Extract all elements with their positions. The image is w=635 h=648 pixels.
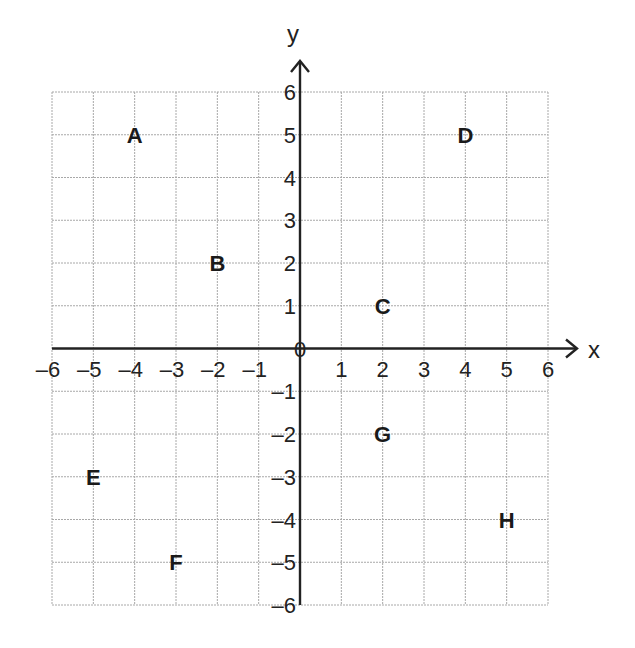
point-f: F [169, 550, 182, 575]
point-c: C [375, 294, 391, 319]
y-tick-label: –6 [272, 593, 296, 618]
y-tick-label: –4 [272, 508, 296, 533]
point-b: B [209, 251, 225, 276]
point-g: G [374, 422, 391, 447]
point-d: D [457, 123, 473, 148]
y-tick-label: –2 [272, 422, 296, 447]
x-tick-label: –4 [118, 357, 142, 382]
point-a: A [127, 123, 143, 148]
y-tick-label: 5 [284, 123, 296, 148]
x-tick-label: 1 [335, 357, 347, 382]
x-tick-label: –2 [201, 357, 225, 382]
x-tick-label: 3 [418, 357, 430, 382]
point-e: E [86, 465, 101, 490]
point-h: H [499, 508, 515, 533]
y-tick-label: 2 [284, 251, 296, 276]
y-tick-label: 4 [284, 166, 296, 191]
y-tick-label: –1 [272, 379, 296, 404]
y-tick-label: 6 [284, 80, 296, 105]
x-tick-label: 5 [501, 357, 513, 382]
x-tick-label: –5 [77, 357, 101, 382]
y-axis-label: y [287, 20, 299, 47]
y-tick-label: 1 [284, 294, 296, 319]
origin-label: 0 [294, 337, 306, 362]
y-tick-label: –5 [272, 550, 296, 575]
x-tick-label: 2 [377, 357, 389, 382]
x-tick-label: 6 [542, 357, 554, 382]
y-tick-label: 3 [284, 208, 296, 233]
x-tick-label: –1 [242, 357, 266, 382]
x-tick-label: 4 [459, 357, 471, 382]
x-tick-label: –6 [36, 357, 60, 382]
x-tick-label: –3 [160, 357, 184, 382]
y-tick-label: –3 [272, 465, 296, 490]
coordinate-plane: xy0 –6–5–4–3–2–1123456 654321–1–2–3–4–5–… [0, 0, 635, 648]
x-axis-label: x [588, 336, 600, 363]
